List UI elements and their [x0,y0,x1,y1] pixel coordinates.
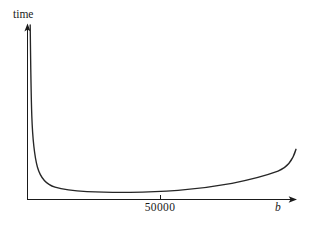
x-tick-label-50000: 50000 [145,202,176,214]
y-axis-label: time [13,9,33,21]
x-axis-label: b [275,202,281,214]
plot-area [0,0,316,225]
time-cost-curve [30,25,296,192]
figure-canvas: time b 50000 [0,0,316,225]
